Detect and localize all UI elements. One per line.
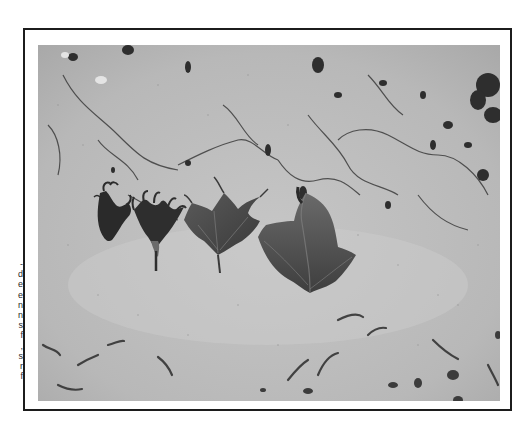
- text-line: d: [13, 269, 23, 279]
- text-line: f: [13, 371, 23, 381]
- text-line: e: [13, 290, 23, 300]
- text-line: ,: [13, 341, 23, 351]
- cut-off-text-column: - d e e n n s f , s r f: [13, 259, 23, 381]
- text-line: -: [13, 259, 23, 269]
- text-line: n: [13, 300, 23, 310]
- text-line: r: [13, 361, 23, 371]
- text-line: e: [13, 279, 23, 289]
- leaves-photograph: [38, 45, 500, 401]
- text-line: n: [13, 310, 23, 320]
- text-line: s: [13, 320, 23, 330]
- text-line: f: [13, 330, 23, 340]
- text-line: s: [13, 351, 23, 361]
